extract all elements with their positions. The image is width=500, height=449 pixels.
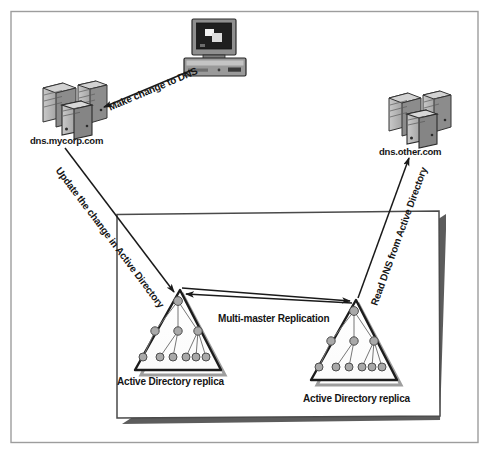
dns-left-label: dns.mycorp.com (30, 135, 103, 146)
dns-right-label: dns.other.com (379, 146, 441, 157)
replica-left-caption: Active Directory replica (117, 376, 224, 387)
diagram-canvas: dns.mycorp.com dns.other.com Active Dire… (0, 0, 500, 449)
flow-label-replication: Multi-master Replication (218, 313, 329, 324)
diagram-vector-layer (0, 0, 500, 449)
replica-right-caption: Active Directory replica (303, 393, 410, 404)
